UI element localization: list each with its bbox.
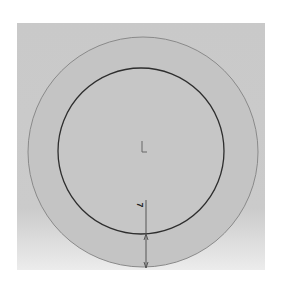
- inner-circle[interactable]: [58, 68, 224, 234]
- ring-drawing: [0, 0, 282, 289]
- dimension-label[interactable]: 7: [135, 202, 145, 207]
